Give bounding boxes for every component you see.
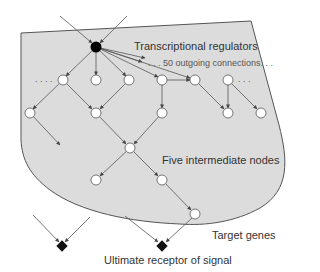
receptor-nodes xyxy=(56,240,167,251)
label-transcriptional-regulators: Transcriptional regulators xyxy=(134,40,258,52)
regulator-hub-node xyxy=(91,42,102,53)
label-intermediate-nodes: Five intermediate nodes xyxy=(162,154,279,166)
label-ellipsis-right: . . . xyxy=(238,74,251,84)
label-target-genes: Target genes xyxy=(212,229,276,241)
label-outgoing-connections: . . . 50 outgoing connections. . . xyxy=(148,58,273,68)
label-ultimate-receptor: Ultimate receptor of signal xyxy=(104,254,232,266)
label-ellipsis-left: . . . . xyxy=(35,74,53,84)
